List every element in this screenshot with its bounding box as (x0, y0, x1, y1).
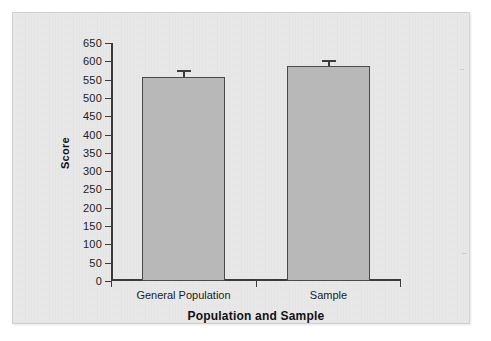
bar (142, 77, 225, 281)
x-axis-tick-mark (111, 281, 112, 287)
x-axis-category-label: General Population (136, 289, 230, 301)
y-axis-line (111, 43, 113, 281)
y-axis-tick-label: 400 (83, 129, 102, 141)
chart-panel: Score 6506005505004504003503002502001501… (12, 12, 470, 324)
y-axis-tick-mark (105, 189, 111, 190)
y-axis-tick-label: 250 (83, 183, 102, 195)
y-axis-title: Score (59, 137, 71, 169)
y-axis-tick-label: 550 (83, 74, 102, 86)
y-axis-tick-mark (105, 208, 111, 209)
y-axis-tick-mark (105, 116, 111, 117)
y-axis-tick-label: 350 (83, 147, 102, 159)
y-axis-tick-label: 200 (83, 202, 102, 214)
bar (287, 66, 370, 281)
y-axis-tick-label: 50 (89, 257, 102, 269)
plot-area: 650600550500450400350300250200150100500 … (111, 43, 401, 281)
error-bar-cap (322, 60, 336, 62)
y-axis-tick-mark (105, 171, 111, 172)
y-axis-tick-label: 300 (83, 165, 102, 177)
y-axis-tick-mark (105, 61, 111, 62)
y-axis-tick-label: 650 (83, 37, 102, 49)
x-axis-tick-mark (256, 281, 257, 287)
y-axis-tick-label: 0 (96, 275, 102, 287)
y-axis-tick-label: 600 (83, 55, 102, 67)
y-axis-tick-mark (105, 153, 111, 154)
y-axis-tick-mark (105, 226, 111, 227)
y-axis-tick-mark (105, 263, 111, 264)
chart-page: Score 6506005505004504003503002502001501… (0, 0, 491, 341)
x-axis-tick-mark (400, 281, 401, 287)
y-axis-tick-mark (105, 244, 111, 245)
y-axis-tick-mark (105, 98, 111, 99)
y-axis-tick-label: 500 (83, 92, 102, 104)
y-axis-tick-mark (105, 135, 111, 136)
x-axis-title: Population and Sample (111, 309, 401, 323)
scan-artifact-right-top (460, 69, 464, 70)
scan-artifact-right-bottom (462, 253, 467, 254)
y-axis-tick-mark (105, 43, 111, 44)
y-axis-tick-mark (105, 80, 111, 81)
y-axis-tick-label: 150 (83, 220, 102, 232)
x-axis-category-label: Sample (310, 289, 347, 301)
error-bar-cap (177, 70, 191, 72)
y-axis-tick-label: 100 (83, 238, 102, 250)
y-axis-tick-label: 450 (83, 110, 102, 122)
